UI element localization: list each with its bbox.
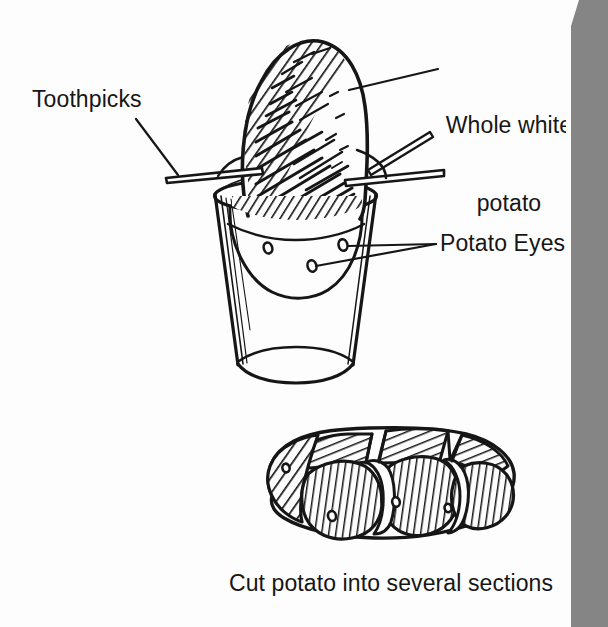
- page-edge-shadow: [571, 0, 608, 627]
- label-potato-eyes: Potato Eyes: [440, 230, 565, 256]
- leader-whole-potato: [349, 69, 438, 90]
- label-whole-white-potato-line1: Whole white: [444, 112, 574, 138]
- caption-cut-potato: Cut potato into several sections: [229, 570, 553, 596]
- leader-potato-eyes-2: [316, 244, 436, 266]
- label-whole-white-potato-line2: potato: [444, 190, 574, 216]
- illustration-page: Toothpicks Whole white potato Potato Eye…: [0, 0, 608, 627]
- potato-eye: [337, 238, 348, 251]
- potato-eyes-group: [262, 238, 348, 273]
- label-toothpicks: Toothpicks: [32, 86, 142, 112]
- potato-eye: [262, 241, 273, 254]
- leader-toothpicks: [136, 119, 178, 175]
- cut-potato-drawing: [268, 428, 514, 539]
